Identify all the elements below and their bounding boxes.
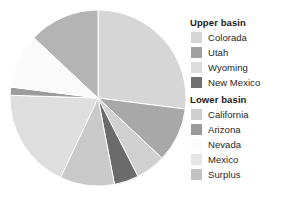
- pie-chart-svg: [8, 8, 188, 188]
- legend-item-colorada[interactable]: Colorada: [190, 30, 283, 45]
- pie-chart-area: [8, 8, 188, 188]
- legend-swatch-icon: [191, 47, 202, 58]
- chart-legend: Upper basinColoradaUtahWyomingNew Mexico…: [190, 16, 283, 192]
- legend-item-arizona[interactable]: Arizona: [190, 122, 283, 137]
- legend-item-label: Utah: [208, 45, 228, 60]
- legend-item-label: Surplus: [208, 167, 241, 182]
- legend-item-label: California: [208, 107, 249, 122]
- legend-swatch-icon: [191, 139, 202, 150]
- pie-slice-group: [10, 10, 186, 186]
- pie-slice-colorada: [98, 10, 186, 109]
- legend-swatch-icon: [191, 124, 202, 135]
- legend-item-label: Nevada: [208, 137, 241, 152]
- legend-group-title: Upper basin: [190, 16, 283, 29]
- legend-swatch-icon: [191, 62, 202, 73]
- legend-item-new-mexico[interactable]: New Mexico: [190, 75, 283, 90]
- legend-item-mexico[interactable]: Mexico: [190, 152, 283, 167]
- legend-item-label: Wyoming: [208, 60, 248, 75]
- legend-group-title: Lower basin: [190, 93, 283, 106]
- legend-group-lower-basin: Lower basinCaliforniaArizonaNevadaMexico…: [190, 93, 283, 182]
- pie-chart-figure: Upper basinColoradaUtahWyomingNew Mexico…: [0, 0, 283, 197]
- legend-item-label: Mexico: [208, 152, 238, 167]
- legend-item-nevada[interactable]: Nevada: [190, 137, 283, 152]
- legend-item-surplus[interactable]: Surplus: [190, 167, 283, 182]
- legend-swatch-icon: [191, 77, 202, 88]
- legend-swatch-icon: [191, 154, 202, 165]
- legend-item-california[interactable]: California: [190, 107, 283, 122]
- legend-item-label: Colorada: [208, 30, 247, 45]
- legend-swatch-icon: [191, 32, 202, 43]
- legend-item-utah[interactable]: Utah: [190, 45, 283, 60]
- legend-item-wyoming[interactable]: Wyoming: [190, 60, 283, 75]
- legend-item-label: New Mexico: [208, 75, 260, 90]
- legend-group-upper-basin: Upper basinColoradaUtahWyomingNew Mexico: [190, 16, 283, 90]
- legend-swatch-icon: [191, 109, 202, 120]
- legend-item-label: Arizona: [208, 122, 241, 137]
- legend-swatch-icon: [191, 169, 202, 180]
